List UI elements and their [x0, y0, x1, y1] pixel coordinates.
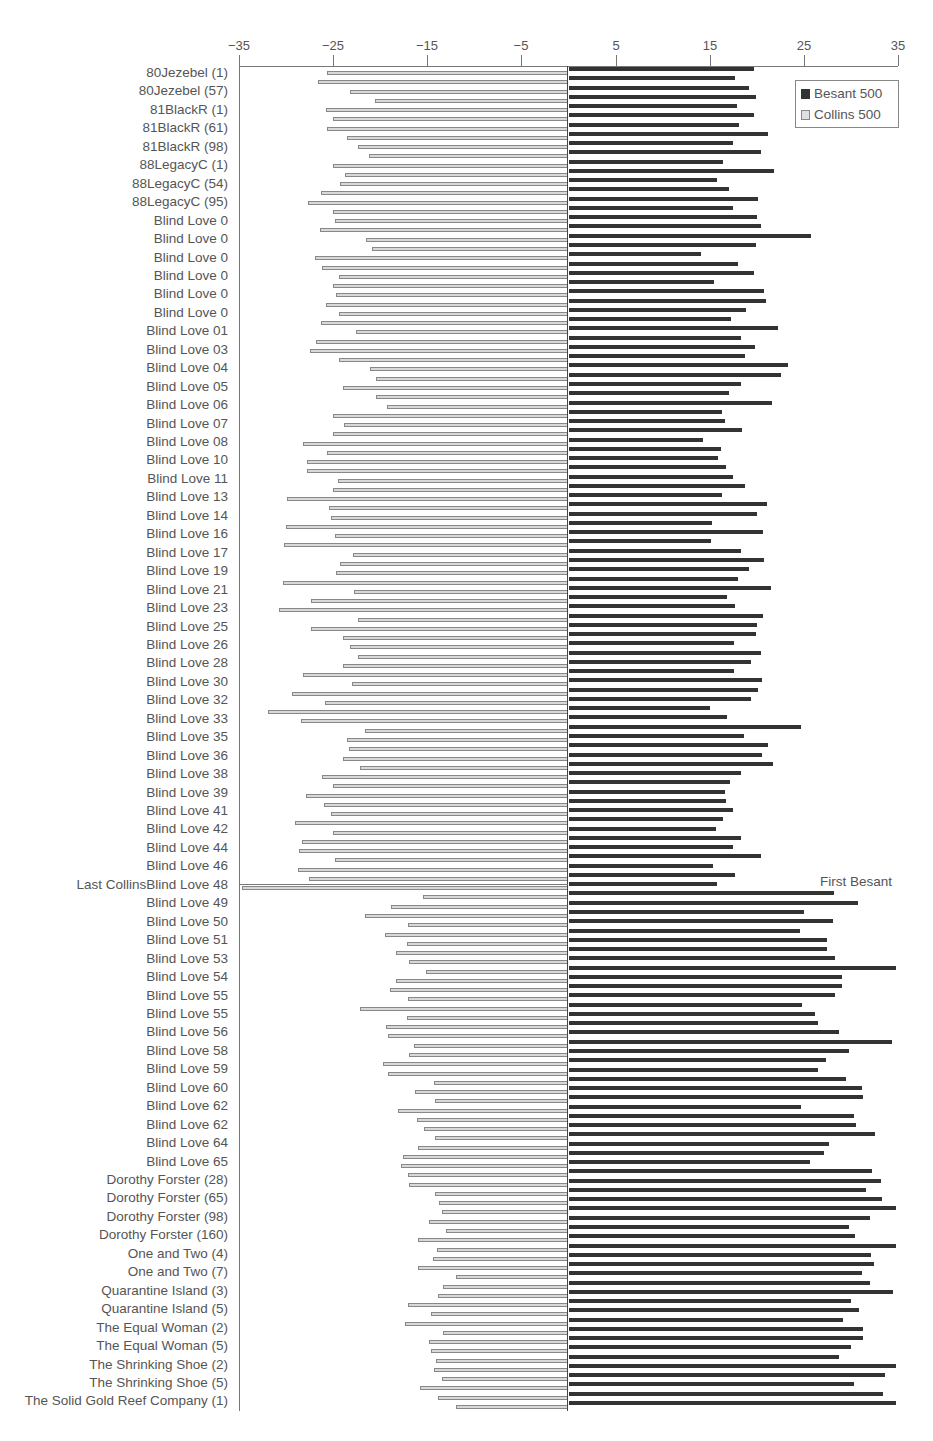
- category-label: Blind Love 0: [154, 212, 228, 230]
- besant-bar: [569, 299, 767, 303]
- collins-bar: [242, 886, 569, 890]
- collins-bar: [429, 1340, 568, 1344]
- besant-bar: [569, 1132, 876, 1136]
- collins-bar: [366, 238, 568, 242]
- collins-bar: [343, 664, 568, 668]
- category-label: Dorothy Forster (28): [106, 1171, 228, 1189]
- legend-label-collins: Collins 500: [814, 107, 881, 122]
- collins-bar: [318, 80, 568, 84]
- category-label: Blind Love 55: [146, 1005, 228, 1023]
- collins-bar: [329, 506, 568, 510]
- besant-bar: [569, 651, 761, 655]
- besant-bar: [569, 882, 718, 886]
- besant-bar: [569, 150, 761, 154]
- collins-bar: [408, 997, 569, 1001]
- besant-bar: [569, 354, 746, 358]
- besant-bar: [569, 141, 734, 145]
- category-label: Blind Love 64: [146, 1134, 228, 1152]
- besant-bar: [569, 521, 712, 525]
- besant-bar: [569, 113, 754, 117]
- collins-bar: [408, 1173, 569, 1177]
- category-label: The Shrinking Shoe (5): [89, 1374, 228, 1392]
- diverging-bar-chart: −35−25−15−55152535 80Jezebel (1)80Jezebe…: [0, 0, 933, 1441]
- collins-bar: [301, 719, 568, 723]
- collins-bar: [376, 377, 568, 381]
- collins-bar: [372, 247, 569, 251]
- besant-bar: [569, 891, 834, 895]
- besant-bar: [569, 252, 702, 256]
- besant-bar: [569, 493, 722, 497]
- besant-bar: [569, 76, 736, 80]
- besant-bar: [569, 1216, 870, 1220]
- besant-bar: [569, 725, 802, 729]
- category-label: 81BlackR (1): [150, 101, 228, 119]
- x-tick: [427, 55, 428, 66]
- besant-bar: [569, 1253, 871, 1257]
- category-label: Blind Love 07: [146, 415, 228, 433]
- collins-bar: [347, 136, 568, 140]
- category-label: Blind Love 38: [146, 765, 228, 783]
- collins-bar: [456, 1405, 569, 1409]
- collins-bar: [424, 1127, 568, 1131]
- besant-bar: [569, 95, 756, 99]
- collins-bar: [309, 877, 569, 881]
- besant-bar: [569, 1225, 850, 1229]
- collins-bar: [396, 979, 568, 983]
- besant-bar: [569, 1123, 856, 1127]
- collins-bar: [439, 1201, 569, 1205]
- collins-bar: [417, 1118, 569, 1122]
- collins-bar: [369, 154, 569, 158]
- besant-bar: [569, 475, 734, 479]
- collins-bar: [443, 1331, 568, 1335]
- besant-bar: [569, 901, 858, 905]
- besant-bar: [569, 502, 768, 506]
- category-label: Blind Love 46: [146, 857, 228, 875]
- besant-bar: [569, 1188, 866, 1192]
- besant-bar: [569, 438, 704, 442]
- besant-bar: [569, 1262, 875, 1266]
- besant-bar: [569, 401, 772, 405]
- collins-bar: [339, 358, 569, 362]
- besant-bar: [569, 827, 717, 831]
- besant-bar: [569, 854, 761, 858]
- category-label: Blind Love 55: [146, 987, 228, 1005]
- besant-swatch-icon: [801, 89, 810, 99]
- x-tick-label: 5: [612, 38, 619, 53]
- besant-bar: [569, 363, 788, 367]
- besant-bar: [569, 280, 715, 284]
- category-label: Blind Love 10: [146, 451, 228, 469]
- category-label: Blind Love 49: [146, 894, 228, 912]
- besant-bar: [569, 864, 713, 868]
- collins-bar: [321, 191, 569, 195]
- collins-bar: [333, 784, 568, 788]
- category-label: 88LegacyC (1): [139, 156, 228, 174]
- collins-bar: [435, 1099, 569, 1103]
- x-tick-label: −25: [322, 38, 344, 53]
- category-label: Blind Love 28: [146, 654, 228, 672]
- besant-bar: [569, 780, 731, 784]
- collins-bar: [350, 90, 568, 94]
- collins-bar: [327, 71, 569, 75]
- collins-bar: [418, 1238, 569, 1242]
- besant-bar: [569, 1169, 872, 1173]
- collins-bar: [434, 1368, 569, 1372]
- collins-bar: [438, 1294, 569, 1298]
- collins-bar: [360, 766, 568, 770]
- collins-bar: [340, 182, 569, 186]
- collins-bar: [284, 543, 568, 547]
- collins-bar: [431, 1312, 568, 1316]
- collins-bar: [383, 1062, 568, 1066]
- category-label: Blind Love 25: [146, 618, 228, 636]
- collins-bar: [396, 951, 568, 955]
- category-label: Blind Love 36: [146, 747, 228, 765]
- besant-bar: [569, 1299, 851, 1303]
- besant-bar: [569, 234, 812, 238]
- besant-bar: [569, 169, 774, 173]
- besant-bar: [569, 1003, 802, 1007]
- collins-bar: [354, 590, 569, 594]
- besant-bar: [569, 604, 736, 608]
- collins-bar: [376, 395, 569, 399]
- collins-bar: [302, 840, 568, 844]
- besant-bar: [569, 1197, 882, 1201]
- besant-bar: [569, 419, 725, 423]
